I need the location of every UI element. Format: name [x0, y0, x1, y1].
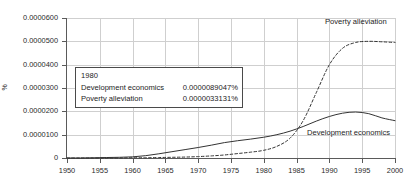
- x-tick-label: 1985: [288, 166, 304, 175]
- x-tick-label: 1990: [321, 166, 337, 175]
- chart-figure: 00.00001000.00002000.00003000.00004000.0…: [0, 0, 419, 191]
- y-axis-title: %: [1, 84, 8, 90]
- tooltip-row: Development economics 0.0000089047%: [81, 83, 238, 94]
- tooltip-series-name: Poverty alleviation: [81, 94, 149, 105]
- x-tick-label: 1980: [256, 166, 272, 175]
- x-tick-label: 1960: [124, 166, 140, 175]
- x-tick-mark: [165, 158, 166, 163]
- tooltip-series-name: Development economics: [81, 83, 170, 94]
- x-tick-mark: [329, 158, 330, 163]
- x-tick-mark: [362, 158, 363, 163]
- x-tick-mark: [198, 158, 199, 163]
- y-tick-label: 0.0000400: [0, 60, 58, 69]
- tooltip-year: 1980: [81, 71, 238, 82]
- y-tick-label: 0.0000600: [0, 13, 58, 22]
- x-tick-label: 1970: [190, 166, 206, 175]
- series-label-development-economics: Development economics: [307, 128, 390, 137]
- x-tick-mark: [264, 158, 265, 163]
- x-tick-mark: [395, 158, 396, 163]
- x-tick-mark: [297, 158, 298, 163]
- gridline-vertical: [395, 18, 396, 158]
- y-tick-label: 0.0000100: [0, 130, 58, 139]
- x-tick-label: 1955: [92, 166, 108, 175]
- x-tick-label: 1965: [157, 166, 173, 175]
- tooltip-series-value: 0.0000089047%: [183, 83, 238, 94]
- y-tick-label: 0.0000300: [0, 83, 58, 92]
- tooltip-row: Poverty alleviation 0.0000033131%: [81, 94, 238, 105]
- x-tick-mark: [133, 158, 134, 163]
- x-tick-label: 2000: [387, 166, 403, 175]
- x-tick-label: 1950: [59, 166, 75, 175]
- x-tick-label: 1995: [354, 166, 370, 175]
- y-tick-label: 0: [0, 153, 58, 162]
- y-tick-label: 0.0000500: [0, 36, 58, 45]
- series-label-poverty-alleviation: Poverty alleviation: [325, 17, 387, 26]
- tooltip-series-value: 0.0000033131%: [183, 94, 238, 105]
- x-tick-label: 1975: [223, 166, 239, 175]
- x-tick-mark: [67, 158, 68, 163]
- x-tick-mark: [100, 158, 101, 163]
- x-tick-mark: [231, 158, 232, 163]
- data-tooltip: 1980 Development economics 0.0000089047%…: [75, 67, 243, 108]
- y-tick-label: 0.0000200: [0, 106, 58, 115]
